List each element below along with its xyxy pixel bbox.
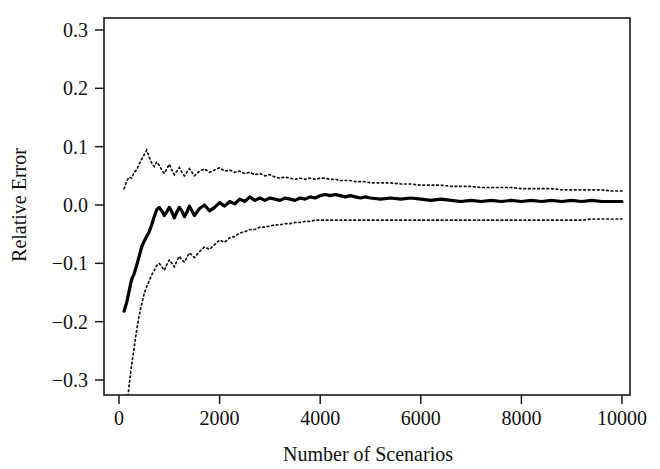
y-tick-label-4: 0.1 [63,136,88,158]
relative-error-convergence-chart: 0200040006000800010000−0.3−0.2−0.10.00.1… [0,0,660,469]
x-tick-label-3: 6000 [401,407,441,429]
x-tick-label-0: 0 [114,407,124,429]
y-tick-label-0: −0.3 [52,369,88,391]
y-tick-label-3: 0.0 [63,194,88,216]
x-axis-title: Number of Scenarios [283,443,453,465]
x-tick-label-1: 2000 [200,407,240,429]
chart-figure: 0200040006000800010000−0.3−0.2−0.10.00.1… [0,0,660,469]
y-tick-label-1: −0.2 [52,311,88,333]
y-tick-label-6: 0.3 [63,19,88,41]
y-tick-label-5: 0.2 [63,77,88,99]
y-tick-label-2: −0.1 [52,252,88,274]
x-tick-label-4: 8000 [501,407,541,429]
y-axis-title: Relative Error [8,148,30,262]
x-tick-label-5: 10000 [597,407,647,429]
chart-background [0,0,660,469]
x-tick-label-2: 4000 [300,407,340,429]
